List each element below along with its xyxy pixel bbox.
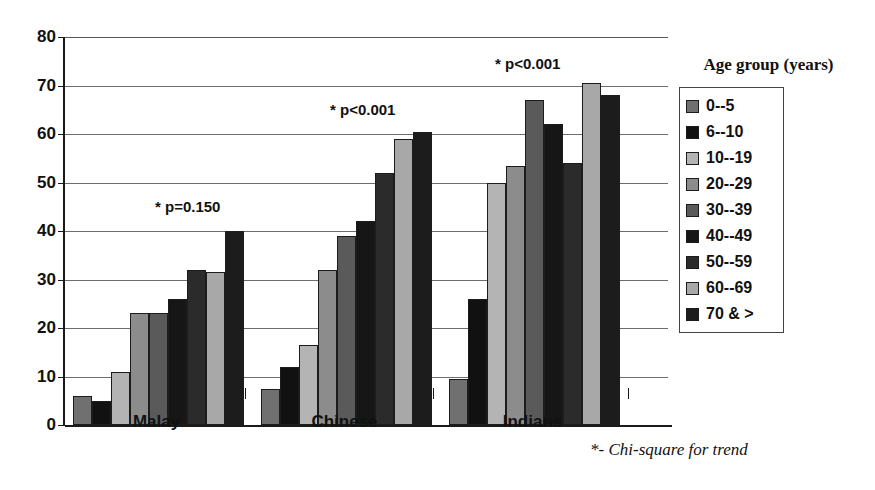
bar bbox=[356, 221, 375, 425]
bar bbox=[394, 139, 413, 425]
legend-item[interactable]: 10--19 bbox=[686, 145, 778, 171]
legend-title: Age group (years) bbox=[676, 55, 861, 75]
y-axis-tick-label: 10 bbox=[37, 367, 56, 387]
legend-item[interactable]: 60--69 bbox=[686, 275, 778, 301]
bar bbox=[92, 401, 111, 425]
bar bbox=[525, 100, 544, 425]
bar bbox=[73, 396, 92, 425]
bar bbox=[563, 163, 582, 425]
bar bbox=[544, 124, 563, 425]
bar bbox=[130, 313, 149, 425]
x-axis-label-indians: Indians bbox=[503, 412, 563, 432]
bar bbox=[506, 166, 525, 425]
bar-group bbox=[261, 37, 432, 425]
x-axis-label-chinese: Chinese bbox=[311, 412, 377, 432]
bar bbox=[261, 389, 280, 425]
bar bbox=[487, 183, 506, 426]
bar-group bbox=[449, 37, 620, 425]
bar-group bbox=[73, 37, 244, 425]
y-axis-tick bbox=[58, 183, 65, 184]
legend-swatch-icon bbox=[686, 308, 699, 321]
bar-chart-figure: 01020304050607080 MalayChineseIndians * … bbox=[0, 0, 875, 490]
legend: Age group (years) 0--56--1010--1920--293… bbox=[676, 55, 866, 333]
y-axis-tick bbox=[58, 134, 65, 135]
bar bbox=[337, 236, 356, 425]
legend-item[interactable]: 30--39 bbox=[686, 197, 778, 223]
legend-swatch-icon bbox=[686, 256, 699, 269]
y-axis-tick bbox=[58, 231, 65, 232]
y-axis-tick-label: 60 bbox=[37, 124, 56, 144]
p-value-annotation-indians: * p<0.001 bbox=[495, 55, 560, 72]
legend-item-label: 6--10 bbox=[706, 123, 743, 141]
y-axis-tick bbox=[58, 377, 65, 378]
legend-items-box: 0--56--1010--1920--2930--3940--4950--596… bbox=[679, 87, 784, 333]
legend-swatch-icon bbox=[686, 230, 699, 243]
legend-swatch-icon bbox=[686, 152, 699, 165]
legend-item-label: 60--69 bbox=[706, 279, 752, 297]
legend-item-label: 50--59 bbox=[706, 253, 752, 271]
y-axis-tick bbox=[58, 425, 65, 426]
bar bbox=[375, 173, 394, 425]
bar bbox=[318, 270, 337, 425]
p-value-annotation-malay: * p=0.150 bbox=[155, 198, 220, 215]
y-axis-tick-label: 80 bbox=[37, 27, 56, 47]
legend-item-label: 30--39 bbox=[706, 201, 752, 219]
x-axis-separator-tick bbox=[433, 388, 434, 399]
y-axis-tick bbox=[58, 86, 65, 87]
bar bbox=[449, 379, 468, 425]
legend-item-label: 70 & > bbox=[706, 305, 754, 323]
bar bbox=[413, 132, 432, 425]
legend-swatch-icon bbox=[686, 282, 699, 295]
legend-item-label: 40--49 bbox=[706, 227, 752, 245]
p-value-annotation-chinese: * p<0.001 bbox=[330, 101, 395, 118]
legend-swatch-icon bbox=[686, 126, 699, 139]
bar bbox=[225, 231, 244, 425]
y-axis-tick-label: 30 bbox=[37, 270, 56, 290]
bar bbox=[149, 313, 168, 425]
bar bbox=[582, 83, 601, 425]
y-axis-tick-label: 0 bbox=[47, 415, 56, 435]
bar bbox=[111, 372, 130, 425]
legend-item[interactable]: 20--29 bbox=[686, 171, 778, 197]
bar bbox=[187, 270, 206, 425]
x-axis-separator-tick bbox=[245, 388, 246, 399]
y-axis-tick bbox=[58, 280, 65, 281]
legend-item[interactable]: 50--59 bbox=[686, 249, 778, 275]
y-axis-tick-label: 70 bbox=[37, 76, 56, 96]
legend-item[interactable]: 0--5 bbox=[686, 93, 778, 119]
plot-area: 01020304050607080 bbox=[63, 37, 666, 425]
y-axis-tick-label: 20 bbox=[37, 318, 56, 338]
legend-item-label: 20--29 bbox=[706, 175, 752, 193]
bar bbox=[601, 95, 620, 425]
legend-item[interactable]: 70 & > bbox=[686, 301, 778, 327]
x-axis-separator-tick bbox=[628, 388, 629, 399]
chart-footnote: *- Chi-square for trend bbox=[590, 440, 748, 460]
y-axis-tick bbox=[58, 328, 65, 329]
bar bbox=[206, 272, 225, 425]
legend-swatch-icon bbox=[686, 100, 699, 113]
y-axis-tick-label: 40 bbox=[37, 221, 56, 241]
y-axis-tick bbox=[58, 37, 65, 38]
legend-item[interactable]: 40--49 bbox=[686, 223, 778, 249]
bar bbox=[280, 367, 299, 425]
legend-item[interactable]: 6--10 bbox=[686, 119, 778, 145]
bar bbox=[168, 299, 187, 425]
legend-swatch-icon bbox=[686, 204, 699, 217]
y-axis-tick-label: 50 bbox=[37, 173, 56, 193]
legend-swatch-icon bbox=[686, 178, 699, 191]
bar bbox=[468, 299, 487, 425]
x-axis-label-malay: Malay bbox=[133, 412, 180, 432]
legend-item-label: 0--5 bbox=[706, 97, 734, 115]
legend-item-label: 10--19 bbox=[706, 149, 752, 167]
